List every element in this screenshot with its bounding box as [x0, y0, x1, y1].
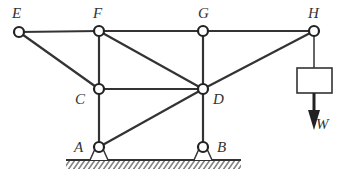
pin-supports: [90, 149, 212, 160]
joint-label-F: F: [92, 5, 103, 21]
joint-label-D: D: [212, 91, 224, 107]
joint-labels: EFGHCDAB: [11, 5, 320, 155]
joint-E: [14, 27, 24, 37]
load-weight-box: [297, 68, 332, 93]
member-EC: [19, 32, 99, 89]
member-AD: [99, 89, 203, 147]
joint-label-H: H: [307, 5, 320, 21]
truss-members: [19, 31, 314, 147]
joint-label-A: A: [73, 139, 84, 155]
truss-diagram: W EFGHCDAB: [0, 0, 350, 190]
load-label: W: [316, 116, 330, 132]
member-EF: [19, 31, 99, 32]
joint-H: [309, 26, 319, 36]
joint-D: [198, 84, 208, 94]
member-FD: [99, 31, 203, 89]
hanging-load: W: [297, 31, 332, 132]
joint-G: [198, 26, 208, 36]
joint-label-C: C: [75, 91, 86, 107]
joint-C: [94, 84, 104, 94]
joint-F: [94, 26, 104, 36]
joint-A: [94, 142, 104, 152]
joint-label-B: B: [217, 139, 226, 155]
joint-label-E: E: [11, 5, 21, 21]
ground: [66, 160, 241, 169]
joint-label-G: G: [198, 5, 209, 21]
joint-B: [198, 142, 208, 152]
